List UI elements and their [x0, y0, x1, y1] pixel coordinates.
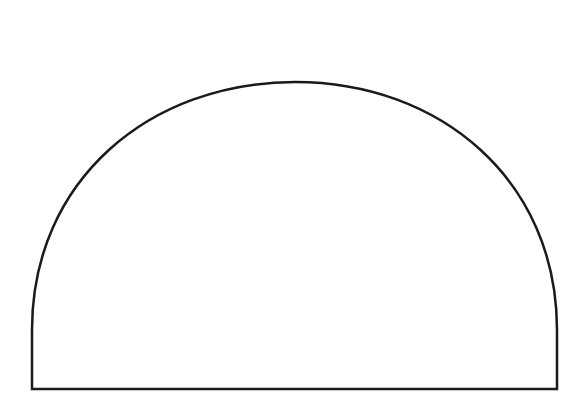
semicircle-outline [32, 82, 557, 389]
semicircle-shape [0, 0, 588, 408]
